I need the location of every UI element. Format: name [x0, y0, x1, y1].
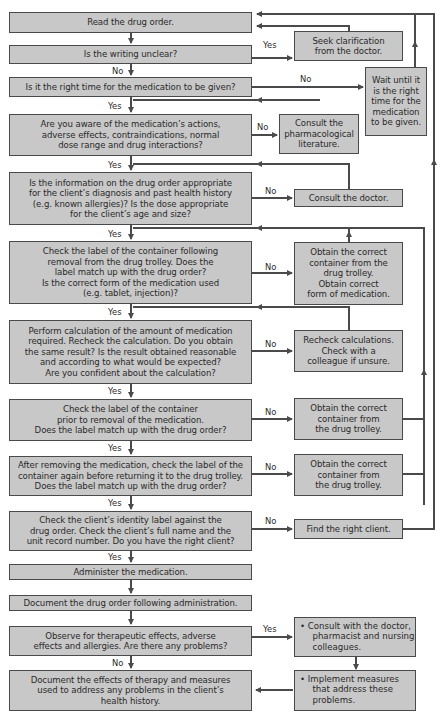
edge-label-yes-observe: Yes [263, 624, 277, 634]
step-consult-doctor: Consult the doctor. [294, 189, 403, 207]
decision-aware-of-medication: Are you aware of the medication’s action… [9, 114, 252, 156]
edge-label-yes-calc: Yes [108, 386, 122, 396]
step-document-order: Document the drug order following admini… [9, 595, 252, 611]
edge-label-no-info: No [265, 186, 276, 196]
edge-label-yes-time: Yes [108, 101, 122, 111]
step-find-right-client: Find the right client. [294, 519, 403, 539]
decision-observe-effects: Observe for therapeutic effects, adverse… [9, 626, 252, 656]
edge-label-yes-label3: Yes [108, 498, 122, 508]
edge-label-no-identity: No [265, 516, 276, 526]
edge-label-no-label2: No [265, 407, 276, 417]
decision-check-label-after: After removing the medication, check the… [9, 456, 252, 496]
edge-label-no-writing: No [112, 66, 123, 76]
decision-check-label-prior: Check the label of the container prior t… [9, 399, 252, 441]
decision-perform-calculation: Perform calculation of the amount of med… [9, 320, 252, 384]
decision-client-identity: Check the client’s identity label agains… [9, 511, 252, 551]
edge-label-no-label3: No [265, 462, 276, 472]
decision-writing-unclear: Is the writing unclear? [9, 45, 252, 64]
edge-label-yes-info: Yes [108, 229, 122, 239]
step-document-effects: Document the effects of therapy and meas… [9, 670, 252, 711]
step-consult-pharmacological: Consult the pharmacological literature. [279, 114, 359, 154]
edge-label-no-observe: No [112, 658, 123, 668]
step-implement-measures: • Implement measures that address these … [294, 670, 416, 711]
step-recheck-calculations: Recheck calculations. Check with a colle… [294, 330, 403, 372]
step-administer: Administer the medication. [9, 564, 252, 580]
step-seek-clarification: Seek clarification from the doctor. [294, 31, 403, 61]
step-obtain-correct-container-2: Obtain the correct container from the dr… [294, 454, 403, 496]
step-consult-team: • Consult with the doctor, pharmacist an… [294, 617, 416, 657]
decision-right-time: Is it the right time for the medication … [9, 77, 252, 97]
step-read-drug-order: Read the drug order. [9, 12, 252, 33]
edge-label-no-calc: No [265, 339, 276, 349]
decision-check-label-removal: Check the label of the container followi… [9, 241, 252, 304]
step-obtain-correct-container-form: Obtain the correct container from the dr… [294, 242, 403, 305]
decision-info-appropriate: Is the information on the drug order app… [9, 172, 252, 225]
edge-label-yes-label2: Yes [108, 443, 122, 453]
edge-label-no-aware: No [257, 122, 268, 132]
edge-label-no-label1: No [265, 262, 276, 272]
step-wait-right-time: Wait until it is the right time for the … [365, 67, 427, 136]
edge-label-yes-writing: Yes [263, 40, 277, 50]
edge-label-no-time: No [300, 74, 311, 84]
step-obtain-correct-container-1: Obtain the correct container from the dr… [294, 398, 403, 440]
edge-label-yes-label1: Yes [108, 307, 122, 317]
edge-label-yes-identity: Yes [108, 552, 122, 562]
edge-label-yes-aware: Yes [108, 160, 122, 170]
